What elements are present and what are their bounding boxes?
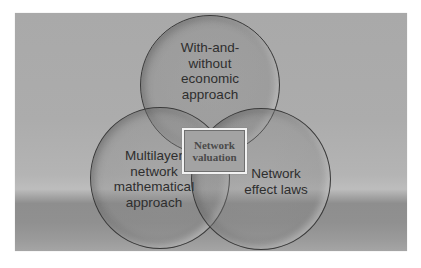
center-intersection-box: Network valuation (182, 128, 247, 174)
center-label: Network valuation (184, 130, 245, 172)
set-label-with-and-without: With-and- without economic approach (165, 40, 255, 102)
set-label-network-effect: Network effect laws (236, 166, 316, 197)
